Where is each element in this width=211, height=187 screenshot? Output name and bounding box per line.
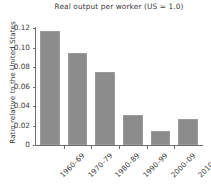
y-tick-mark bbox=[33, 145, 36, 146]
x-tick-label: 1990–99 bbox=[141, 151, 169, 179]
bar bbox=[95, 72, 114, 145]
plot-area bbox=[36, 28, 202, 145]
x-tick-mark bbox=[91, 146, 92, 149]
x-tick-label: 1960–69 bbox=[58, 151, 86, 179]
y-tick-label: 0.10 bbox=[14, 43, 30, 52]
bar bbox=[178, 119, 197, 145]
x-tick-mark bbox=[147, 146, 148, 149]
bar bbox=[123, 115, 142, 145]
bar-chart: Real output per worker (US = 1.0) Ratio … bbox=[0, 0, 211, 187]
y-tick-label: 0.06 bbox=[14, 82, 30, 91]
y-tick-label: 0.04 bbox=[14, 101, 30, 110]
x-tick-mark bbox=[119, 146, 120, 149]
y-tick-label: 0.08 bbox=[14, 62, 30, 71]
y-tick-label: 0 bbox=[25, 140, 30, 149]
x-tick-label: 1970–79 bbox=[86, 151, 114, 179]
bar bbox=[151, 131, 170, 145]
chart-title: Real output per worker (US = 1.0) bbox=[30, 2, 208, 11]
x-tick-mark bbox=[174, 146, 175, 149]
y-tick-label: 0.12 bbox=[14, 23, 30, 32]
bar bbox=[68, 53, 87, 145]
x-tick-label: 2010–17 bbox=[196, 151, 211, 179]
x-tick-mark bbox=[64, 146, 65, 149]
y-tick-label: 0.02 bbox=[14, 121, 30, 130]
x-tick-label: 2000–09 bbox=[169, 151, 197, 179]
x-tick-label: 1980–89 bbox=[113, 151, 141, 179]
bar bbox=[40, 31, 59, 145]
